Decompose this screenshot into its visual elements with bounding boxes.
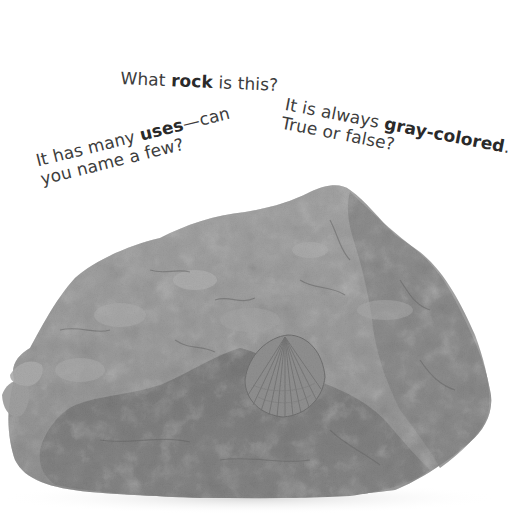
rock-photo	[0, 180, 516, 529]
question-gray-colored: It is always gray-colored. True or false…	[280, 95, 512, 176]
question-uses: It has many uses—can you name a few?	[34, 104, 236, 189]
question-rock-identity: What rock is this?	[120, 69, 278, 95]
caption-keyword: rock	[171, 70, 214, 92]
caption-text: is this?	[213, 72, 279, 95]
caption-text: What	[120, 68, 171, 90]
